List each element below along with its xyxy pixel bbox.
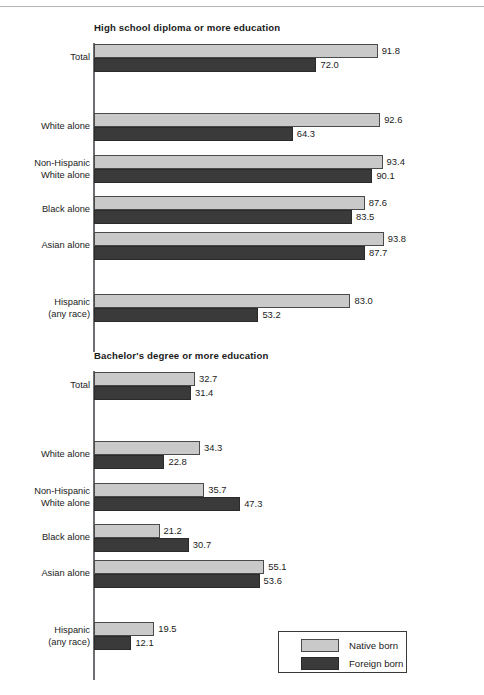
bar-foreign-born — [94, 636, 131, 650]
bar-native-born — [94, 44, 378, 58]
bar-value-label: 87.6 — [369, 197, 387, 209]
figure-panel-chart: High school diploma or more education To… — [0, 0, 484, 695]
bar-row: 34.3 — [94, 441, 484, 455]
bar-foreign-born — [94, 246, 365, 260]
bar-value-label: 47.3 — [244, 498, 262, 510]
bar-group: Black alone87.683.5 — [0, 196, 484, 224]
bar-foreign-born — [94, 538, 189, 552]
bar-row: 92.6 — [94, 113, 484, 127]
bar-value-label: 53.2 — [262, 309, 280, 321]
bar-value-label: 87.7 — [369, 247, 387, 259]
bar-value-label: 32.7 — [199, 373, 217, 385]
bar-value-label: 55.1 — [268, 561, 286, 573]
bar-group: White alone34.322.8 — [0, 441, 484, 469]
bar-row: 90.1 — [94, 169, 484, 183]
bar-group: Black alone21.230.7 — [0, 524, 484, 552]
bar-row: 35.7 — [94, 483, 484, 497]
category-axis-label: Black alone — [0, 532, 90, 544]
chart-legend: Native bornForeign born — [278, 631, 407, 673]
bar-native-born — [94, 294, 350, 308]
bar-group: Total91.872.0 — [0, 44, 484, 72]
bar-row: 47.3 — [94, 497, 484, 511]
bar-value-label: 93.8 — [388, 233, 406, 245]
bar-group: Hispanic (any race)19.512.1 — [0, 622, 484, 650]
bar-value-label: 30.7 — [193, 539, 211, 551]
bar-group: Hispanic (any race)83.053.2 — [0, 294, 484, 322]
bar-row: 87.7 — [94, 246, 484, 260]
bar-foreign-born — [94, 58, 316, 72]
bar-row: 22.8 — [94, 455, 484, 469]
category-axis-label: Hispanic (any race) — [0, 297, 90, 320]
chart-title: High school diploma or more education — [94, 22, 280, 33]
bar-foreign-born — [94, 127, 293, 141]
bar-value-label: 31.4 — [195, 387, 213, 399]
bar-foreign-born — [94, 169, 372, 183]
legend-swatch-foreign-born — [301, 657, 339, 670]
category-axis-label: White alone — [0, 449, 90, 461]
bar-value-label: 53.6 — [264, 575, 282, 587]
bar-native-born — [94, 196, 365, 210]
bar-value-label: 91.8 — [382, 45, 400, 57]
bar-row: 72.0 — [94, 58, 484, 72]
bar-value-label: 83.5 — [356, 211, 374, 223]
bar-value-label: 92.6 — [384, 114, 402, 126]
bar-group: Total32.731.4 — [0, 372, 484, 400]
bar-foreign-born — [94, 210, 352, 224]
bar-foreign-born — [94, 574, 260, 588]
bar-foreign-born — [94, 455, 164, 469]
bar-row: 91.8 — [94, 44, 484, 58]
bar-row: 83.5 — [94, 210, 484, 224]
bar-value-label: 64.3 — [297, 128, 315, 140]
bar-native-born — [94, 622, 154, 636]
bar-row: 93.4 — [94, 155, 484, 169]
bar-group: Asian alone55.153.6 — [0, 560, 484, 588]
legend-entry: Native born — [301, 639, 401, 652]
bar-group: Asian alone93.887.7 — [0, 232, 484, 260]
bar-value-label: 12.1 — [135, 637, 153, 649]
bar-native-born — [94, 483, 204, 497]
bar-value-label: 83.0 — [354, 295, 372, 307]
bar-native-born — [94, 155, 383, 169]
bar-group: Non-Hispanic White alone93.490.1 — [0, 155, 484, 183]
legend-entry: Foreign born — [301, 657, 401, 670]
category-axis-label: Asian alone — [0, 240, 90, 252]
bar-row: 55.1 — [94, 560, 484, 574]
bar-value-label: 35.7 — [208, 484, 226, 496]
bar-native-born — [94, 372, 195, 386]
bar-row: 83.0 — [94, 294, 484, 308]
bar-value-label: 34.3 — [204, 442, 222, 454]
bar-row: 87.6 — [94, 196, 484, 210]
category-axis-label: White alone — [0, 121, 90, 133]
bar-value-label: 90.1 — [376, 170, 394, 182]
bar-native-born — [94, 524, 160, 538]
bar-native-born — [94, 441, 200, 455]
legend-label: Foreign born — [349, 656, 403, 671]
bar-row: 30.7 — [94, 538, 484, 552]
bar-value-label: 19.5 — [158, 623, 176, 635]
category-axis-label: Asian alone — [0, 568, 90, 580]
bar-row: 53.2 — [94, 308, 484, 322]
legend-swatch-native-born — [301, 639, 339, 652]
category-axis-label: Non-Hispanic White alone — [0, 486, 90, 509]
bar-row: 53.6 — [94, 574, 484, 588]
bar-row: 32.7 — [94, 372, 484, 386]
bar-foreign-born — [94, 308, 258, 322]
bar-value-label: 72.0 — [320, 59, 338, 71]
category-axis-label: Non-Hispanic White alone — [0, 158, 90, 181]
top-divider-rule — [0, 6, 484, 7]
bar-native-born — [94, 113, 380, 127]
category-axis-label: Black alone — [0, 204, 90, 216]
bar-row: 64.3 — [94, 127, 484, 141]
bar-group: Non-Hispanic White alone35.747.3 — [0, 483, 484, 511]
category-axis-label: Total — [0, 380, 90, 392]
bar-value-label: 93.4 — [387, 156, 405, 168]
bar-native-born — [94, 232, 384, 246]
category-axis-label: Total — [0, 52, 90, 64]
bar-native-born — [94, 560, 264, 574]
legend-label: Native born — [349, 638, 398, 653]
bar-row: 93.8 — [94, 232, 484, 246]
category-axis-label: Hispanic (any race) — [0, 625, 90, 648]
bar-group: White alone92.664.3 — [0, 113, 484, 141]
bar-foreign-born — [94, 386, 191, 400]
bar-value-label: 22.8 — [168, 456, 186, 468]
